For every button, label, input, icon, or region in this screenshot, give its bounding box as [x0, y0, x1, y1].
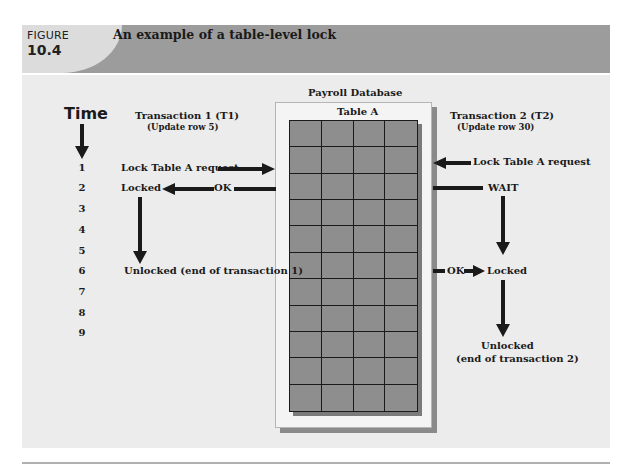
time-step-8: 8 — [72, 307, 92, 318]
t2-wait-line — [433, 186, 483, 190]
table-row-cell — [385, 121, 417, 147]
table-row-cell — [354, 358, 386, 384]
time-step-6: 6 — [72, 265, 92, 276]
table-row-cell — [385, 279, 417, 305]
table-row-cell — [322, 226, 354, 252]
table-row-cell — [290, 174, 322, 200]
time-step-1: 1 — [72, 162, 92, 173]
t1-title: Transaction 1 (T1) — [135, 110, 239, 121]
table-row-cell — [290, 358, 322, 384]
time-arrow-icon — [75, 124, 89, 160]
table-row-cell — [322, 332, 354, 358]
table-row-cell — [354, 253, 386, 279]
table-row-cell — [385, 385, 417, 411]
table-row-cell — [385, 147, 417, 173]
time-step-2: 2 — [72, 182, 92, 193]
table-row-cell — [385, 226, 417, 252]
table-row-cell — [354, 226, 386, 252]
t2-ok-label: OK — [447, 265, 464, 276]
table-row-cell — [322, 121, 354, 147]
figure-title: An example of a table-level lock — [113, 27, 336, 42]
table-row-cell — [322, 174, 354, 200]
table-row-cell — [385, 358, 417, 384]
table-row-cell — [322, 306, 354, 332]
table-row-cell — [322, 200, 354, 226]
t1-locked-label: Locked — [121, 182, 161, 193]
table-row-cell — [290, 306, 322, 332]
t2-subtitle: (Update row 30) — [457, 122, 534, 132]
table-row-cell — [322, 253, 354, 279]
t1-ok-line — [234, 187, 276, 191]
table-row-cell — [290, 385, 322, 411]
table-row-cell — [290, 279, 322, 305]
t2-title: Transaction 2 (T2) — [450, 110, 554, 121]
t2-locked-label: Locked — [487, 265, 527, 276]
time-step-9: 9 — [72, 327, 92, 338]
table-row-cell — [354, 306, 386, 332]
time-step-4: 4 — [72, 224, 92, 235]
figure-number: 10.4 — [27, 42, 62, 58]
t2-ok-line — [433, 269, 445, 273]
t2-unlocked-note: (end of transaction 2) — [456, 353, 579, 364]
table-row-cell — [290, 200, 322, 226]
t2-request-arrow-icon — [433, 157, 471, 169]
table-row-cell — [290, 147, 322, 173]
t2-wait-label: WAIT — [488, 182, 518, 193]
t1-ok-label: OK — [214, 182, 231, 193]
t2-wait-arrow-icon — [496, 196, 510, 256]
time-step-5: 5 — [72, 245, 92, 256]
time-step-7: 7 — [72, 286, 92, 297]
t2-request-label: Lock Table A request — [473, 156, 591, 167]
t1-request-arrow-icon — [218, 163, 276, 175]
t1-ok-arrow-icon — [162, 183, 214, 195]
t2-unlocked-label: Unlocked — [481, 340, 534, 351]
table-row-cell — [322, 358, 354, 384]
table-row-cell — [354, 174, 386, 200]
figure-label: FIGURE — [27, 29, 69, 42]
table-row-cell — [354, 385, 386, 411]
table-row-cell — [322, 147, 354, 173]
table-row-cell — [354, 200, 386, 226]
table-row-cell — [354, 279, 386, 305]
t2-hold-arrow-icon — [496, 280, 510, 338]
t2-ok-arrow-icon — [464, 265, 486, 277]
table-row-cell — [385, 200, 417, 226]
table-row-cell — [322, 385, 354, 411]
table-row-cell — [385, 306, 417, 332]
time-step-3: 3 — [72, 203, 92, 214]
bottom-rule — [22, 462, 610, 464]
table-row-cell — [354, 121, 386, 147]
t1-unlocked-label: Unlocked (end of transaction 1) — [124, 265, 303, 276]
t1-hold-arrow-icon — [133, 197, 147, 265]
database-label: Payroll Database — [308, 87, 402, 98]
table-row-cell — [385, 332, 417, 358]
table-row-cell — [322, 279, 354, 305]
table-label: Table A — [337, 106, 378, 117]
table-row-cell — [290, 226, 322, 252]
table-row-cell — [354, 332, 386, 358]
table-row-cell — [354, 147, 386, 173]
t1-subtitle: (Update row 5) — [147, 122, 218, 132]
table-row-cell — [385, 174, 417, 200]
time-axis-label: Time — [64, 104, 108, 123]
table-row-cell — [290, 121, 322, 147]
table-grid — [289, 120, 418, 412]
table-row-cell — [290, 332, 322, 358]
table-row-cell — [385, 253, 417, 279]
